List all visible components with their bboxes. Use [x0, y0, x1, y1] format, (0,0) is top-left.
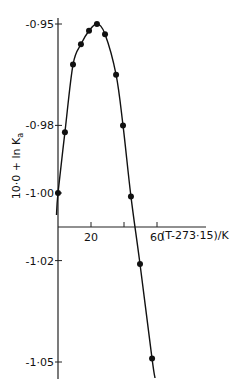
- data-point: [70, 62, 76, 68]
- chart: 2060-0·95-0·98-1·00-1·02-1·05 (T-273·15)…: [0, 0, 250, 389]
- data-point: [128, 193, 134, 199]
- data-point: [78, 41, 84, 47]
- data-point: [86, 28, 92, 34]
- data-point: [94, 21, 100, 27]
- fitted-curve: [57, 24, 156, 378]
- curve-path: [57, 24, 156, 378]
- y-tick-label: -1·02: [26, 255, 54, 268]
- data-point: [113, 72, 119, 78]
- x-axis-title: (T-273·15)/K: [161, 229, 229, 242]
- x-tick-label: 20: [84, 231, 98, 244]
- y-tick-label: -0·95: [26, 18, 54, 31]
- data-points: [55, 21, 155, 362]
- data-point: [137, 261, 143, 267]
- data-point: [55, 190, 61, 196]
- y-tick-label: -1·00: [26, 187, 54, 200]
- y-tick-label: -1·05: [26, 356, 54, 369]
- y-tick-label: -0·98: [26, 119, 54, 132]
- data-point: [102, 31, 108, 37]
- data-point: [149, 356, 155, 362]
- tick-labels: 2060-0·95-0·98-1·00-1·02-1·05: [26, 18, 164, 369]
- y-axis-title: 10·0 + ln Ka: [10, 133, 25, 199]
- data-point: [120, 122, 126, 128]
- data-point: [62, 129, 68, 135]
